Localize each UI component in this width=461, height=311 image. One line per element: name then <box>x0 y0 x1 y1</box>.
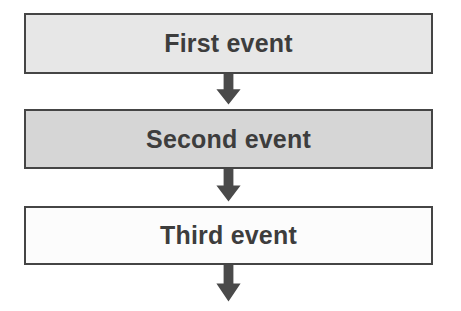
flowchart-node-first-event: First event <box>24 13 433 74</box>
flowchart-node-label: Third event <box>160 223 297 248</box>
flowchart-node-label: First event <box>164 31 293 56</box>
flowchart-node-second-event: Second event <box>24 109 433 169</box>
flowchart-diagram: First event Second event Third event <box>0 0 461 311</box>
flowchart-node-third-event: Third event <box>24 206 433 265</box>
flowchart-node-label: Second event <box>146 127 311 152</box>
